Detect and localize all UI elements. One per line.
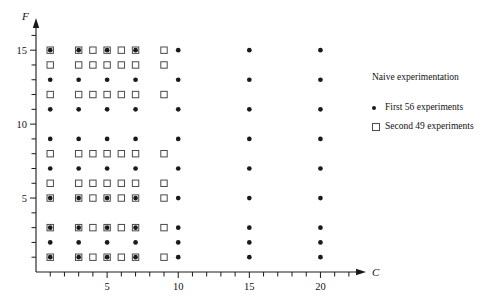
legend-entry-second-label: Second 49 experiments (385, 121, 474, 133)
data-point-dot (76, 196, 81, 201)
data-point-dot (176, 255, 181, 260)
data-point-dot (133, 240, 138, 245)
data-point-square (47, 62, 53, 68)
data-point-square (118, 180, 124, 186)
data-point-square (75, 180, 81, 186)
data-point-dot (48, 196, 53, 201)
data-point-square (161, 224, 167, 230)
data-point-dot (176, 137, 181, 142)
data-point-dot (318, 196, 323, 201)
data-point-square (118, 195, 124, 201)
data-point-dot (105, 77, 110, 82)
legend: Naive experimentation First 56 experimen… (372, 72, 498, 140)
scatter-plot-figure: 510152051015CF Naive experimentation Fir… (0, 0, 502, 307)
data-point-dot (133, 196, 138, 201)
data-point-dot (318, 137, 323, 142)
data-point-square (75, 150, 81, 156)
open-square-icon (372, 123, 385, 131)
data-point-dot (133, 48, 138, 53)
data-point-dot (247, 137, 252, 142)
data-point-dot (76, 225, 81, 230)
data-point-square (132, 180, 138, 186)
data-point-square (90, 180, 96, 186)
data-point-square (161, 150, 167, 156)
data-point-dot (48, 225, 53, 230)
data-point-dot (247, 225, 252, 230)
data-point-dot (247, 107, 252, 112)
data-point-dot (76, 240, 81, 245)
data-point-square (118, 254, 124, 260)
data-point-dot (48, 240, 53, 245)
data-point-square (90, 47, 96, 53)
data-point-dot (133, 225, 138, 230)
x-tick-label: 20 (315, 281, 326, 292)
x-tick-label: 15 (244, 281, 255, 292)
data-point-dot (105, 255, 110, 260)
data-point-dot (318, 225, 323, 230)
data-point-dot (48, 255, 53, 260)
legend-entry-first: First 56 experiments (372, 102, 498, 114)
data-point-square (161, 47, 167, 53)
data-point-square (104, 62, 110, 68)
data-point-square (90, 254, 96, 260)
data-point-dot (76, 77, 81, 82)
data-point-square (90, 195, 96, 201)
data-point-dot (105, 137, 110, 142)
data-point-square (118, 91, 124, 97)
data-point-square (161, 62, 167, 68)
data-point-dot (176, 196, 181, 201)
data-point-dot (105, 107, 110, 112)
data-point-dot (48, 137, 53, 142)
data-point-dot (48, 107, 53, 112)
data-point-square (118, 150, 124, 156)
x-tick-label: 10 (173, 281, 184, 292)
data-point-dot (318, 107, 323, 112)
x-axis-arrow (356, 269, 366, 275)
data-point-dot (76, 48, 81, 53)
data-point-dot (133, 137, 138, 142)
data-point-square (75, 62, 81, 68)
data-point-dot (76, 255, 81, 260)
x-tick-label: 5 (104, 281, 109, 292)
data-point-dot (318, 255, 323, 260)
data-point-square (75, 91, 81, 97)
data-point-dot (76, 137, 81, 142)
data-point-dot (247, 166, 252, 171)
data-point-square (118, 47, 124, 53)
data-point-square (90, 62, 96, 68)
data-point-dot (76, 166, 81, 171)
data-point-dot (247, 48, 252, 53)
data-point-square (47, 150, 53, 156)
data-point-square (161, 254, 167, 260)
data-point-dot (247, 255, 252, 260)
data-point-dot (105, 196, 110, 201)
data-point-square (118, 224, 124, 230)
x-axis-label: C (372, 266, 380, 278)
data-point-square (132, 91, 138, 97)
data-point-square (161, 195, 167, 201)
data-point-dot (133, 107, 138, 112)
data-point-dot (176, 225, 181, 230)
data-point-dot (133, 255, 138, 260)
data-point-dot (247, 196, 252, 201)
data-point-dot (48, 77, 53, 82)
data-point-square (104, 91, 110, 97)
data-point-dot (133, 77, 138, 82)
filled-circle-icon (372, 106, 385, 110)
data-point-dot (176, 240, 181, 245)
data-point-dot (48, 48, 53, 53)
series-first-56-experiments (48, 48, 323, 260)
data-point-dot (133, 166, 138, 171)
y-tick-label: 15 (17, 45, 28, 56)
data-point-dot (176, 48, 181, 53)
data-point-dot (105, 166, 110, 171)
data-point-square (47, 180, 53, 186)
y-tick-label: 5 (22, 193, 27, 204)
data-point-dot (76, 107, 81, 112)
data-point-square (132, 62, 138, 68)
scatter-plot-canvas: 510152051015CF (0, 0, 502, 307)
data-point-dot (318, 240, 323, 245)
legend-entry-second: Second 49 experiments (372, 121, 498, 133)
data-point-dot (48, 166, 53, 171)
data-point-dot (318, 48, 323, 53)
